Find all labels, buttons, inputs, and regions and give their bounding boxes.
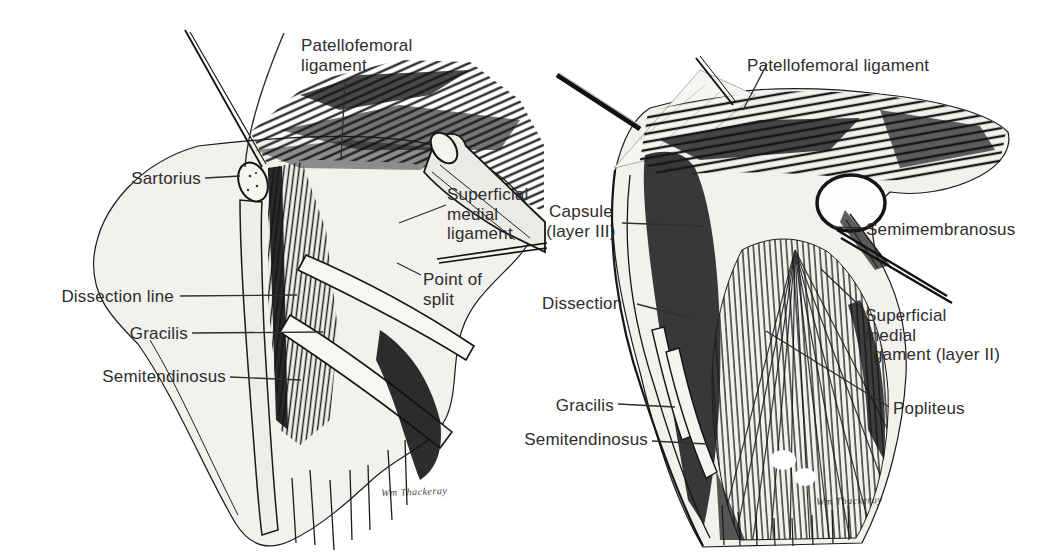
label-semimembranosus: Semimembranosus bbox=[866, 220, 1036, 240]
label-dissection-line: Dissection line bbox=[44, 287, 174, 307]
label-gracilis: Gracilis bbox=[118, 324, 188, 344]
label-capsule-layer-iii: Capsule (layer III) bbox=[541, 202, 621, 241]
label-dissection: Dissection bbox=[542, 294, 642, 314]
label-gracilis-right: Gracilis bbox=[548, 396, 614, 416]
highlight-spot bbox=[794, 468, 816, 486]
label-patellofemoral-ligament: Patellofemoral ligament bbox=[301, 36, 441, 75]
illustrator-signature-left: Wm Thackeray bbox=[381, 485, 448, 498]
label-patellofemoral-ligament-right: Patellofemoral ligament bbox=[747, 56, 967, 76]
retractor-instrument-right bbox=[557, 73, 641, 129]
highlight-spot bbox=[770, 450, 796, 470]
anatomical-illustration bbox=[0, 0, 1054, 560]
illustrator-signature-right: Wm Thackeray bbox=[816, 494, 883, 507]
figure-canvas: Patellofemoral ligament Sartorius Superf… bbox=[0, 0, 1054, 560]
label-sartorius: Sartorius bbox=[106, 169, 201, 189]
label-point-of-split: Point of split bbox=[423, 270, 513, 309]
label-superficial-medial-ligament-layer-ii: Superficial medial ligament (layer II) bbox=[865, 306, 1030, 365]
label-popliteus: Popliteus bbox=[893, 399, 988, 419]
label-semitendinosus: Semitendinosus bbox=[86, 367, 226, 387]
label-semitendinosus-right: Semitendinosus bbox=[516, 430, 648, 450]
